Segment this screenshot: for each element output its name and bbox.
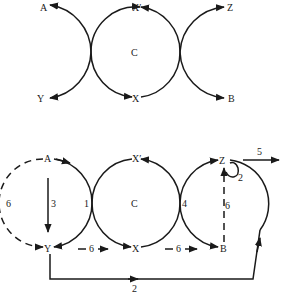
top-node-x: X <box>132 93 140 104</box>
label-z-exit: 5 <box>257 146 262 157</box>
top-node-x-prime: X′ <box>132 2 141 13</box>
top-arc-tangent-to-y <box>50 52 91 98</box>
bottom-arc-tangent-left-to-xprime <box>92 159 132 203</box>
label-x-to-b: 6 <box>176 243 181 254</box>
bottom-arc-tangent-left-to-x <box>92 203 131 247</box>
bottom-arc-z-right-loop <box>230 160 269 230</box>
label-a-to-y: 3 <box>51 198 56 209</box>
top-node-a: A <box>40 2 48 13</box>
label-b-to-z: 6 <box>225 200 230 211</box>
bottom-arc-tangent-to-y <box>54 203 92 247</box>
bottom-route-y-to-loop <box>50 230 260 279</box>
label-left-tangent: 1 <box>84 198 89 209</box>
top-arc-x-to-tangent-right <box>141 52 180 97</box>
bottom-arrow-a-right <box>56 159 70 163</box>
top-arc-tangent-to-b <box>180 52 224 98</box>
bottom-node-c: C <box>131 198 138 209</box>
top-node-c: C <box>131 47 138 58</box>
top-node-y: Y <box>37 93 44 104</box>
railway-loop-diagram: A X′ Z Y X B C <box>0 0 285 296</box>
bottom-arc-x-to-tangent-right <box>141 203 180 247</box>
top-node-z: Z <box>227 2 233 13</box>
label-bottom-route: 2 <box>132 283 137 294</box>
bottom-arc-tangent-right-to-xprime <box>141 159 180 203</box>
top-arc-tangent-to-a <box>50 5 91 52</box>
bottom-node-x: X <box>132 243 140 254</box>
bottom-node-x-prime: X′ <box>132 153 141 164</box>
bottom-arc-a-to-tangent <box>54 159 92 203</box>
bottom-arc-tangent-to-b <box>180 203 218 247</box>
bottom-node-y: Y <box>44 243 51 254</box>
top-arc-tangent-left-to-x <box>91 52 132 97</box>
top-arc-tangent-right-to-xprime <box>141 7 180 52</box>
top-node-b: B <box>228 93 235 104</box>
label-z-loop: 2 <box>238 172 243 183</box>
bottom-node-a: A <box>44 153 52 164</box>
bottom-node-z: Z <box>219 155 225 166</box>
label-left-dashed: 6 <box>6 198 11 209</box>
top-arc-tangent-to-z <box>180 7 224 52</box>
top-arc-tangent-left-to-xprime <box>91 7 140 52</box>
label-y-to-x: 6 <box>89 243 94 254</box>
bottom-small-loop-z <box>226 163 238 177</box>
bottom-arc-tangent-to-z <box>180 160 218 203</box>
bottom-node-b: B <box>220 243 227 254</box>
label-right-tangent: 4 <box>182 198 187 209</box>
